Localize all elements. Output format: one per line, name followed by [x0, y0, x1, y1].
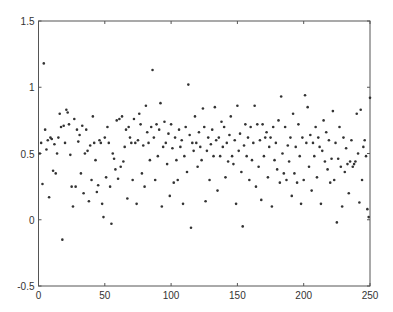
data-point — [182, 203, 185, 206]
scatter-points — [39, 62, 372, 241]
data-point — [68, 123, 71, 126]
data-point — [341, 205, 344, 208]
data-point — [302, 179, 305, 182]
data-point — [228, 134, 231, 137]
data-point — [344, 171, 347, 174]
data-point — [249, 126, 252, 129]
data-point — [351, 165, 354, 168]
data-point — [130, 142, 133, 145]
data-point — [121, 115, 124, 118]
data-point — [326, 168, 329, 171]
data-point — [162, 146, 165, 149]
data-point — [313, 155, 316, 158]
data-point — [153, 136, 156, 139]
data-point — [308, 165, 311, 168]
data-point — [57, 136, 60, 139]
data-point — [43, 62, 46, 65]
data-point — [279, 181, 282, 184]
data-point — [286, 144, 289, 147]
data-point — [147, 142, 150, 145]
data-point — [192, 150, 195, 153]
data-point — [322, 119, 325, 122]
data-point — [117, 177, 120, 180]
data-point — [106, 126, 109, 129]
data-point — [272, 126, 275, 129]
data-point — [285, 179, 288, 182]
data-point — [244, 123, 247, 126]
data-point — [102, 216, 105, 219]
data-point — [231, 155, 234, 158]
y-tick-label: -0.5 — [17, 281, 35, 292]
data-point — [259, 139, 262, 142]
data-point — [66, 111, 69, 114]
data-point — [199, 146, 202, 149]
data-point — [125, 128, 128, 131]
data-point — [283, 172, 286, 175]
data-point — [138, 112, 141, 115]
data-point — [154, 179, 157, 182]
data-point — [72, 205, 75, 208]
data-point — [77, 140, 80, 143]
data-point — [301, 136, 304, 139]
data-point — [97, 184, 100, 187]
plot-frame — [39, 21, 371, 286]
data-point — [305, 142, 308, 145]
data-point — [223, 126, 226, 129]
data-point — [361, 179, 364, 182]
data-point — [155, 123, 158, 126]
x-tick-label: 250 — [362, 290, 379, 301]
data-point — [54, 172, 57, 175]
data-point — [316, 176, 319, 179]
data-point — [100, 142, 103, 145]
data-point — [89, 144, 92, 147]
data-point — [275, 142, 278, 145]
data-point — [342, 136, 345, 139]
data-point — [253, 105, 256, 108]
data-point — [263, 155, 266, 158]
data-point — [252, 142, 255, 145]
data-point — [224, 176, 227, 179]
data-point — [118, 118, 121, 121]
data-point — [365, 155, 368, 158]
data-point — [255, 185, 258, 188]
data-point — [157, 155, 160, 158]
data-point — [206, 150, 209, 153]
data-point — [141, 172, 144, 175]
data-point — [298, 155, 301, 158]
data-point — [340, 165, 343, 168]
data-point — [264, 136, 267, 139]
data-point — [359, 108, 362, 111]
data-point — [93, 142, 96, 145]
data-point — [235, 203, 238, 206]
data-point — [336, 221, 339, 224]
data-point — [105, 176, 108, 179]
data-point — [265, 131, 268, 134]
data-point — [330, 158, 333, 161]
data-point — [243, 144, 246, 147]
data-point — [350, 139, 353, 142]
data-point — [293, 172, 296, 175]
data-point — [233, 139, 236, 142]
data-point — [210, 143, 213, 146]
data-point — [41, 183, 44, 186]
data-point — [45, 148, 48, 151]
data-point — [194, 115, 197, 118]
data-point — [292, 112, 295, 115]
data-point — [195, 142, 198, 145]
data-point — [280, 95, 283, 98]
x-tick-label: 0 — [36, 290, 42, 301]
data-point — [241, 225, 244, 228]
data-point — [176, 179, 179, 182]
data-point — [346, 163, 349, 166]
data-point — [62, 124, 65, 127]
y-tick-label: 0 — [29, 215, 35, 226]
data-point — [325, 131, 328, 134]
data-point — [227, 160, 230, 163]
data-point — [74, 185, 77, 188]
data-point — [225, 142, 228, 145]
data-point — [239, 132, 242, 135]
data-point — [127, 126, 130, 129]
data-point — [196, 165, 199, 168]
data-point — [48, 196, 51, 199]
data-point — [90, 179, 93, 182]
